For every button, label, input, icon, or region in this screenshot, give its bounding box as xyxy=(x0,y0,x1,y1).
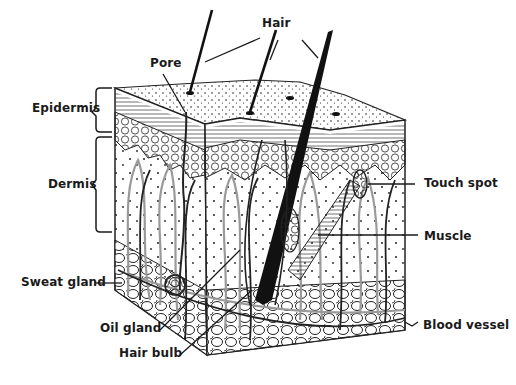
label-hair-bulb: Hair bulb xyxy=(119,346,182,360)
label-muscle: Muscle xyxy=(424,229,472,243)
skin-diagram: Hair Pore Epidermis Dermis Touch spot Mu… xyxy=(0,0,516,385)
label-oil-gland: Oil gland xyxy=(100,321,161,335)
label-touch-spot: Touch spot xyxy=(424,176,498,190)
label-sweat-gland: Sweat gland xyxy=(21,275,106,289)
label-dermis: Dermis xyxy=(48,177,96,191)
label-blood-vessel: Blood vessel xyxy=(423,318,509,332)
label-pore: Pore xyxy=(150,56,182,70)
label-epidermis: Epidermis xyxy=(32,101,100,115)
label-hair: Hair xyxy=(262,16,291,30)
